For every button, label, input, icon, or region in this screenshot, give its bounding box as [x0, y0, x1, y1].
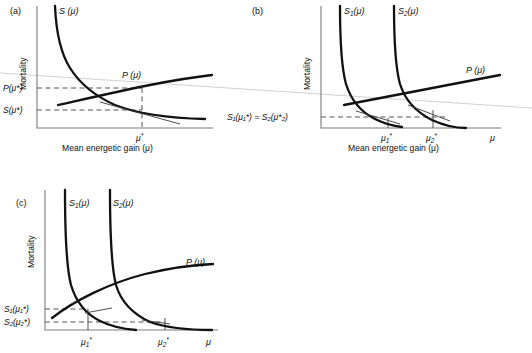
panel-a-curve-S-label: S (μ) — [59, 6, 78, 16]
panel-b-x-axis-label: Mean energetic gain (μ) — [348, 143, 439, 153]
panel-c-value-s2: S₂(μ₂*) — [4, 317, 30, 327]
panel-b-xtick-mu2-star: * — [434, 132, 437, 139]
panel-c-value-s1: S₁(μ₁*) — [4, 304, 29, 314]
panel-b-curve-S1 — [340, 6, 402, 127]
panel-a-s-arg: (μ*) — [9, 105, 23, 115]
panel-b-S2-arg: (μ) — [408, 6, 419, 16]
panel-c-x-end-label: μ — [205, 337, 211, 347]
panel-c-xtick-mu1-star: * — [89, 336, 92, 343]
three-panel-mortality-figure: (a) Mortality Mean energetic gain (μ) S … — [0, 0, 532, 353]
panel-b-letter: (b) — [252, 6, 263, 16]
panel-a-value-s-star: S(μ*) — [3, 105, 23, 115]
panel-b-curve-S1-label: S1(μ) — [344, 6, 365, 17]
panel-c-curve-S1 — [65, 190, 136, 330]
panel-c-letter: (c) — [16, 198, 27, 208]
scan-artifact-line — [0, 73, 532, 108]
panel-c-curve-S2-label: S2(μ) — [113, 198, 134, 209]
panel-c-xtick-mu2-star: * — [166, 336, 169, 343]
panel-c-tangent-1 — [85, 308, 112, 313]
panel-a-x-axis-label: Mean energetic gain (μ) — [62, 143, 153, 153]
panel-c-xtick-mu1: μ1* — [80, 336, 92, 348]
svg-text:S(μ*): S(μ*) — [3, 105, 23, 115]
panel-c-curve-S1-label: S1(μ) — [69, 198, 90, 209]
panel-b-x-end-label: μ — [489, 133, 495, 143]
panel-a-value-p-star: P(μ*) — [3, 83, 23, 93]
panel-c-S2-arg: (μ) — [123, 198, 134, 208]
panel-c-curve-P-label: P (μ) — [186, 257, 205, 267]
panel-a-curve-S — [55, 6, 205, 119]
panel-a-p-arg: (μ*) — [9, 83, 23, 93]
panel-c-S1-arg: (μ) — [79, 198, 90, 208]
panel-b: (b) Mortality Mean energetic gain (μ) S1… — [227, 6, 501, 153]
panel-b-curve-P-label: P (μ) — [466, 65, 485, 75]
panel-b-curve-S2 — [394, 6, 466, 128]
panel-b-y-axis-label: Mortality — [302, 57, 312, 90]
panel-a: (a) Mortality Mean energetic gain (μ) S … — [3, 6, 213, 153]
panel-b-S1-arg: (μ) — [354, 6, 365, 16]
panel-a-tangent-line — [100, 102, 180, 124]
panel-a-letter: (a) — [10, 6, 21, 16]
panel-b-xtick-mu1-star: * — [389, 132, 392, 139]
panel-a-xtick-mu-star: μ* — [135, 132, 144, 143]
panel-c-y-axis-label: Mortality — [26, 235, 36, 268]
svg-text:P(μ*): P(μ*) — [3, 83, 23, 93]
panel-b-curve-S2-label: S2(μ) — [398, 6, 419, 17]
panel-a-curve-P-label: P (μ) — [122, 70, 141, 80]
panel-a-xtick-star: * — [141, 132, 144, 139]
panel-b-equality-label: S₁(μ₁*) = S₂(μ*₂) — [227, 112, 288, 122]
panel-c: (c) Mortality S1(μ) S2(μ) P (μ) S₁(μ₁*) … — [4, 190, 218, 348]
figure-root: (a) Mortality Mean energetic gain (μ) S … — [0, 0, 532, 353]
panel-c-xtick-mu2: μ2* — [157, 336, 169, 348]
